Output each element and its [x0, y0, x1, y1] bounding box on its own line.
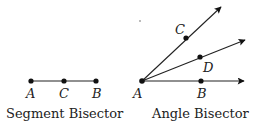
label-b: B: [196, 86, 207, 101]
ray-ad-bisector: [142, 40, 245, 81]
point-b: [93, 78, 98, 83]
angle-bisector-caption: Angle Bisector: [151, 106, 249, 121]
label-c: C: [59, 86, 69, 101]
label-a: A: [25, 86, 35, 101]
label-b: B: [91, 86, 102, 101]
label-c: C: [175, 22, 185, 37]
point-a: [28, 78, 33, 83]
label-vertex-a: A: [132, 86, 142, 101]
bisector-diagram: A C B Segment Bisector A C D B Angle Bis…: [0, 0, 256, 127]
point-c-midpoint: [61, 78, 66, 83]
point-b: [198, 78, 203, 83]
stray-dot: [139, 20, 141, 22]
segment-bisector-caption: Segment Bisector: [6, 106, 124, 121]
vertex-a: [139, 78, 145, 84]
point-d: [197, 54, 202, 59]
label-d: D: [202, 60, 214, 75]
angle-bisector-figure: A C D B Angle Bisector: [132, 7, 249, 121]
segment-bisector-figure: A C B Segment Bisector: [6, 78, 124, 121]
